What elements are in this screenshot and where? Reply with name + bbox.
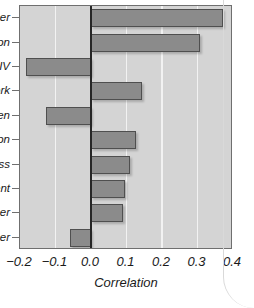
bar — [91, 180, 125, 198]
bar — [91, 204, 123, 222]
y-axis-tick — [12, 212, 19, 213]
x-axis-tick-label: 0.4 — [223, 254, 241, 269]
x-axis-tick-label: 0.1 — [116, 254, 134, 269]
zero-line — [90, 6, 92, 248]
y-axis-tick-label: IV — [0, 60, 10, 72]
x-axis-tick-label: 0.0 — [81, 254, 99, 269]
bar — [91, 34, 200, 52]
y-axis-tick-label: er — [0, 231, 10, 243]
y-axis-tick-label: en — [0, 109, 10, 121]
x-axis-tick-label: −0.1 — [42, 254, 68, 269]
bar — [70, 229, 91, 247]
x-axis-title: Correlation — [0, 275, 252, 290]
y-axis-tick — [12, 139, 19, 140]
y-axis-tick — [12, 188, 19, 189]
y-axis-tick-label: ork — [0, 84, 10, 96]
gridline — [55, 6, 57, 248]
x-axis-tick-label: −0.2 — [6, 254, 32, 269]
x-axis-tick-label: 0.3 — [187, 254, 205, 269]
y-axis-tick — [12, 115, 19, 116]
y-axis-tick-label: on — [0, 36, 10, 48]
y-axis-tick — [12, 90, 19, 91]
y-axis-tick — [12, 42, 19, 43]
bar — [91, 82, 142, 100]
y-axis-tick-label: on — [0, 133, 10, 145]
plot-area — [19, 5, 232, 249]
y-axis-tick-label: er — [0, 206, 10, 218]
y-axis-tick-label: ent — [0, 182, 10, 194]
y-axis-tick-label: cer — [0, 11, 10, 23]
y-axis-tick — [12, 237, 19, 238]
bar — [91, 156, 130, 174]
x-axis-tick-label: 0.2 — [152, 254, 170, 269]
y-axis-tick-label: ss — [0, 158, 10, 170]
bar — [46, 107, 91, 125]
y-axis-tick — [12, 164, 19, 165]
bar — [26, 58, 91, 76]
y-axis-tick — [12, 17, 19, 18]
y-axis-tick — [12, 66, 19, 67]
bar — [91, 131, 136, 149]
bar — [91, 9, 223, 27]
